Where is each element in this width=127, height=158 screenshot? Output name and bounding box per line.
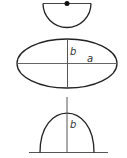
arch-figure: b xyxy=(29,97,108,153)
geometry-diagram: b a b xyxy=(0,0,127,158)
center-point xyxy=(65,1,70,6)
semicircle-arc xyxy=(43,4,91,28)
label-b: b xyxy=(70,46,76,57)
semicircle-figure xyxy=(43,1,91,28)
ellipse-figure: b a xyxy=(17,39,117,88)
label-a: a xyxy=(87,53,93,64)
arch-label-b: b xyxy=(70,119,76,130)
